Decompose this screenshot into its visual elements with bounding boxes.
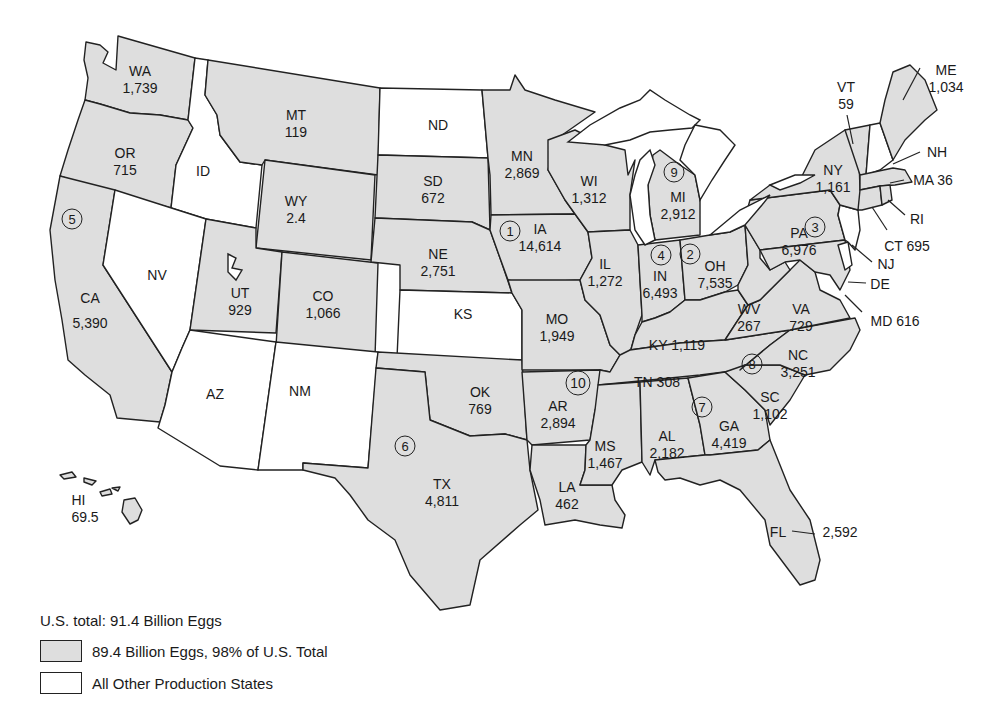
state-HI-island-3 (100, 489, 112, 496)
label-IL: IL1,272 (587, 256, 622, 290)
label-OH: OH7,535 (697, 258, 732, 292)
state-HI-island-4 (112, 487, 120, 491)
label-NE: NE2,751 (420, 246, 455, 280)
legend-label: 89.4 Billion Eggs, 98% of U.S. Total (92, 643, 328, 660)
label-NM: NM (289, 383, 311, 400)
label-SD: SD672 (421, 173, 444, 207)
legend-total: U.S. total: 91.4 Billion Eggs (40, 612, 328, 629)
label-MN: MN2,869 (504, 148, 539, 182)
leader-DE (848, 282, 866, 283)
label-FL-value: 2,592 (822, 524, 857, 541)
label-NH: NH (927, 144, 947, 161)
legend-swatch-gray (40, 640, 82, 662)
rank-badge-NC: 8 (742, 354, 763, 375)
label-MO: MO1,949 (539, 311, 574, 345)
label-CT: CT 695 (884, 238, 930, 255)
label-VA: VA729 (789, 301, 812, 335)
leader-MD (845, 295, 862, 312)
rank-badge-TX: 6 (395, 436, 416, 457)
legend-item-production: 89.4 Billion Eggs, 98% of U.S. Total (40, 639, 328, 663)
state-CT (858, 186, 882, 210)
label-UT: UT929 (228, 285, 251, 319)
rank-badge-PA: 3 (805, 217, 826, 238)
label-NC: NC3,251 (780, 347, 815, 381)
label-LA: LA462 (555, 479, 578, 513)
state-WY (256, 160, 375, 260)
legend: U.S. total: 91.4 Billion Eggs 89.4 Billi… (40, 612, 328, 703)
label-TN: TN 308 (634, 374, 680, 391)
label-WY: WY2.4 (285, 193, 308, 227)
label-OR: OR715 (113, 145, 136, 179)
label-NY: NY1,161 (815, 162, 850, 196)
label-AL: AL2,182 (649, 428, 684, 462)
label-RI: RI (910, 211, 924, 228)
label-MS: MS1,467 (587, 438, 622, 472)
label-HI: HI69.5 (71, 492, 98, 526)
label-MI: MI2,912 (660, 189, 695, 223)
legend-item-other: All Other Production States (40, 671, 328, 695)
legend-swatch-white (40, 672, 82, 694)
label-CO: CO1,066 (305, 288, 340, 322)
label-AR: AR2,894 (540, 398, 575, 432)
rank-badge-GA: 7 (692, 397, 713, 418)
label-WA: WA1,739 (122, 63, 157, 97)
label-CA: CA5,390 (72, 290, 107, 332)
leader-NJ (852, 245, 872, 262)
label-ME: ME1,034 (928, 62, 963, 96)
rank-badge-IA: 1 (500, 221, 521, 242)
label-MA: MA 36 (913, 172, 953, 189)
label-NV: NV (147, 267, 166, 284)
label-GA: GA4,419 (711, 418, 746, 452)
state-HI-island-5 (122, 498, 142, 524)
label-ND: ND (428, 117, 448, 134)
label-IN: IN6,493 (642, 268, 677, 302)
legend-label: All Other Production States (92, 675, 273, 692)
label-WV: WV267 (737, 301, 760, 335)
label-NJ: NJ (877, 256, 894, 273)
state-NM (258, 342, 378, 470)
label-FL: FL (770, 524, 786, 541)
label-KS: KS (454, 306, 473, 323)
rank-badge-MI: 9 (664, 162, 685, 183)
label-KY: KY 1,119 (649, 337, 705, 354)
leader-RI (888, 200, 905, 215)
label-AZ: AZ (206, 386, 224, 403)
leader-CT (872, 207, 887, 230)
state-HI-island-2 (84, 478, 96, 485)
state-KS (397, 290, 522, 360)
rank-badge-IN: 4 (651, 245, 672, 266)
label-ID: ID (196, 163, 210, 180)
label-TX: TX4,811 (425, 476, 459, 510)
label-IA: IA14,614 (519, 221, 562, 255)
label-VT: VT59 (837, 79, 855, 113)
label-WI: WI1,312 (571, 173, 606, 207)
rank-badge-OH: 2 (680, 244, 701, 265)
state-HI-island-1 (60, 472, 76, 479)
label-MD: MD 616 (870, 313, 919, 330)
label-MT: MT119 (285, 107, 307, 141)
label-DE: DE (870, 276, 889, 293)
rank-badge-AR: 10 (566, 371, 591, 396)
rank-badge-CA: 5 (62, 209, 83, 230)
label-OK: OK769 (468, 384, 491, 418)
label-SC: SC1,102 (752, 389, 787, 423)
